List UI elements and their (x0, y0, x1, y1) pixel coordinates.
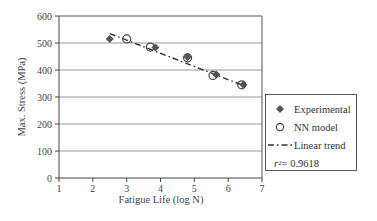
y-axis-ticks: 0100200300400500600 (37, 11, 59, 184)
svg-text:200: 200 (37, 119, 52, 130)
legend-label: Experimental (294, 104, 351, 115)
y-axis-label: Max. Stress (MPa) (16, 57, 28, 137)
r-squared-annotation: r2 = 0.9618 (266, 155, 364, 171)
open-circle-icon (266, 122, 294, 132)
svg-text:1: 1 (57, 183, 62, 194)
svg-text:500: 500 (37, 38, 52, 49)
svg-text:600: 600 (37, 11, 52, 22)
x-axis-ticks: 1234567 (57, 178, 265, 194)
chart-legend: Experimental NN model Linear trend r2 = … (265, 94, 357, 171)
svg-text:6: 6 (226, 183, 231, 194)
svg-text:2: 2 (90, 183, 95, 194)
legend-label: NN model (294, 122, 338, 133)
filled-diamond-icon (266, 104, 294, 114)
legend-label: Linear trend (294, 140, 346, 151)
legend-item-linear-trend: Linear trend (266, 137, 356, 153)
legend-item-experimental: Experimental (266, 101, 356, 117)
legend-item-nn-model: NN model (266, 119, 356, 135)
svg-text:300: 300 (37, 92, 52, 103)
experimental-point (106, 35, 114, 43)
svg-text:0: 0 (47, 173, 52, 184)
svg-text:3: 3 (124, 183, 129, 194)
svg-text:5: 5 (192, 183, 197, 194)
svg-text:4: 4 (158, 183, 163, 194)
x-axis-label: Fatigue Life (log N) (119, 194, 204, 206)
svg-text:400: 400 (37, 65, 52, 76)
svg-text:7: 7 (260, 183, 265, 194)
gridlines (59, 16, 262, 151)
svg-text:100: 100 (37, 146, 52, 157)
dash-dot-line-icon (266, 142, 294, 148)
